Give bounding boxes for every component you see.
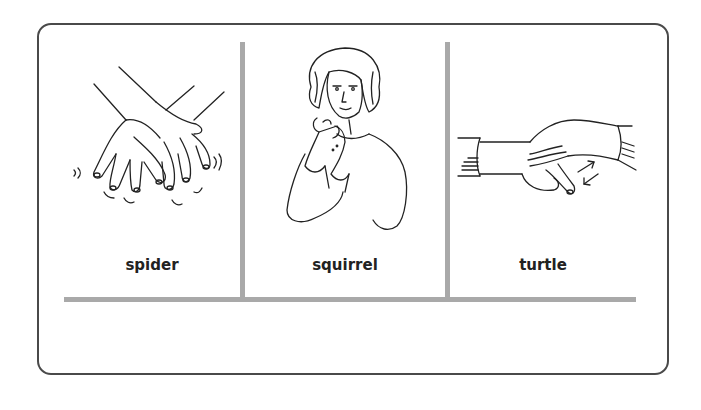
panel-turtle: turtle <box>450 42 636 297</box>
sign-label-spider: spider <box>64 256 240 274</box>
sign-label-squirrel: squirrel <box>245 256 445 274</box>
bottom-divider <box>64 297 636 302</box>
turtle-sign-illustration <box>450 42 636 242</box>
spider-sign-illustration <box>64 42 240 242</box>
panel-spider: spider <box>64 42 240 297</box>
panel-squirrel: squirrel <box>245 42 445 297</box>
squirrel-sign-illustration <box>245 42 445 242</box>
sign-label-turtle: turtle <box>450 256 636 274</box>
